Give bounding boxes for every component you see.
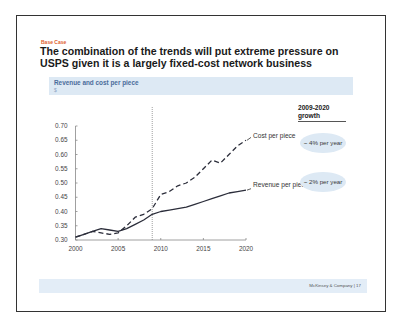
cost-growth-text: ~ 4% per year [304, 139, 343, 147]
y-tick-label: 0.40 [55, 208, 68, 215]
revenue-growth-text: ~ 2% per year [304, 178, 343, 186]
page-number: 17 [356, 283, 361, 288]
slide: Base Case The combination of the trends … [16, 15, 386, 312]
revenue-leader-line [247, 189, 251, 190]
cost-leader-line [247, 137, 251, 140]
x-tick-label: 2020 [239, 245, 254, 252]
revenue-growth-bubble: ~ 2% per year [300, 172, 346, 192]
footer-text: McKinsey & Company | 17 [309, 283, 361, 288]
x-tick-label: 2010 [154, 245, 169, 252]
cost-per-piece-line [76, 140, 247, 237]
company-name: McKinsey & Company [309, 283, 352, 288]
line-chart: 0.300.350.400.450.500.550.600.650.702000… [17, 16, 387, 313]
revenue-per-piece-line [76, 190, 247, 237]
footer-band: McKinsey & Company | 17 [39, 279, 367, 293]
y-tick-label: 0.65 [55, 136, 68, 143]
y-tick-label: 0.35 [55, 222, 68, 229]
footer-separator: | [354, 283, 355, 288]
y-tick-label: 0.30 [55, 236, 68, 243]
y-tick-label: 0.70 [55, 122, 68, 129]
x-tick-label: 2000 [68, 245, 83, 252]
cost-growth-bubble: ~ 4% per year [300, 133, 346, 153]
x-tick-label: 2005 [111, 245, 126, 252]
y-tick-label: 0.45 [55, 193, 68, 200]
y-tick-label: 0.60 [55, 151, 68, 158]
growth-header: 2009-2020 growth [298, 104, 346, 122]
cost-series-label: Cost per piece [253, 132, 296, 140]
x-tick-label: 2015 [196, 245, 211, 252]
y-tick-label: 0.50 [55, 179, 68, 186]
y-tick-label: 0.55 [55, 165, 68, 172]
